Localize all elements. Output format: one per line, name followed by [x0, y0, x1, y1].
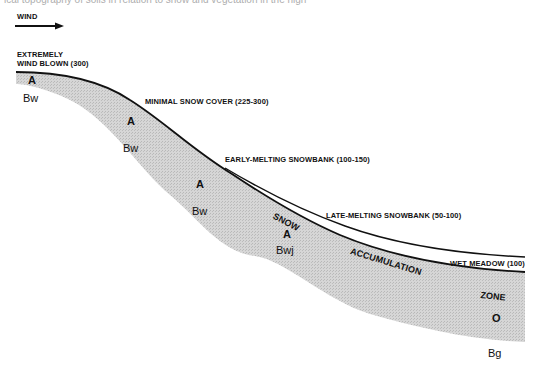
horizon-a-1: A — [28, 74, 36, 86]
slope-profile-graphic — [0, 0, 540, 370]
horizon-bw-1: Bw — [23, 92, 38, 104]
horizon-bg-5: Bg — [488, 347, 501, 359]
zone-label-wind-blown: WIND BLOWN (300) — [17, 59, 89, 68]
zone-label-wet-meadow: WET MEADOW (100) — [450, 259, 525, 268]
arrow-right-icon — [15, 23, 64, 30]
horizon-a-3: A — [196, 178, 204, 190]
horizon-bw-3: Bw — [192, 205, 207, 217]
zone-label-late-melting: LATE-MELTING SNOWBANK (50-100) — [326, 211, 461, 220]
horizon-a-2: A — [127, 115, 135, 127]
soil-horizon-band — [16, 72, 525, 342]
zone-label-early-melting: EARLY-MELTING SNOWBANK (100-150) — [225, 155, 370, 164]
horizon-bw-2: Bw — [123, 142, 138, 154]
zone-label-minimal-snow: MINIMAL SNOW COVER (225-300) — [145, 97, 269, 106]
horizon-o-5: O — [492, 312, 501, 324]
horizon-a-4: A — [283, 228, 291, 240]
wind-label: WIND — [17, 12, 37, 21]
toposequence-diagram: ical topography of soils in relation to … — [0, 0, 540, 370]
zone-label-extremely: EXTREMELY — [17, 50, 63, 59]
horizon-bwj-4: Bwj — [276, 244, 294, 256]
